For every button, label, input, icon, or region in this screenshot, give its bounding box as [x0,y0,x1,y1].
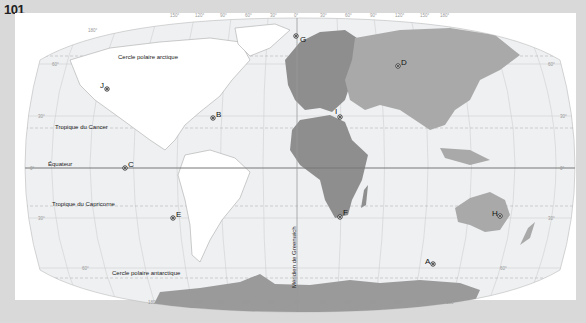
svg-text:A: A [425,257,431,266]
lat-label: 60° [500,266,507,271]
lon-label: 30° [270,13,277,18]
tropic-cancer-label: Tropique du Cancer [55,124,108,130]
lon-label: 150° [170,13,180,18]
svg-text:J: J [100,81,104,90]
lon-label: 180° [440,13,450,18]
equator-label: Équateur [48,161,72,167]
lon-label: 90° [370,300,377,305]
lon-label: 120° [195,13,205,18]
tropic-capricorn-label: Tropique du Capricorne [52,201,115,207]
svg-text:H: H [492,209,498,218]
lon-label: 150° [416,300,426,305]
lon-label: 0° [294,13,299,18]
lat-label: 60° [82,266,89,271]
lon-label: 150° [420,13,430,18]
lat-label: 30° [560,114,567,119]
lon-label: 90° [370,13,377,18]
lon-label: 180° [88,28,98,33]
lat-label: 0° [30,166,35,171]
svg-text:F: F [343,208,348,217]
lon-label: 30° [320,13,327,18]
lon-label: 120° [393,300,403,305]
svg-text:B: B [216,110,221,119]
lat-label: 60° [548,62,555,67]
lon-label: 90° [218,300,225,305]
lat-label: 60° [52,62,59,67]
lon-label: 180° [148,300,158,305]
lat-label: 30° [38,216,45,221]
lon-label: 120° [193,300,203,305]
lat-label: 30° [548,216,555,221]
lon-label: 30° [268,300,275,305]
svg-text:G: G [300,35,306,44]
arctic-circle-label: Cercle polaire arctique [118,54,179,60]
lon-label: 0° [295,300,300,305]
lon-label: 120° [395,13,405,18]
lon-label: 60° [345,13,352,18]
lon-label: 180° [446,300,456,305]
greenwich-meridian-label: Méridien de Greenwich [291,226,297,288]
svg-text:I: I [335,107,337,116]
lon-label: 60° [345,300,352,305]
lon-label: 150° [170,300,180,305]
lon-label: 90° [220,13,227,18]
svg-text:C: C [128,160,134,169]
lat-label: 30° [38,114,45,119]
lat-label: 0° [560,166,565,171]
svg-text:E: E [176,210,181,219]
world-map: 180° 150° 120° 90° 60° 30° 0° 30° 60° 90… [0,0,586,323]
lon-label: 60° [245,13,252,18]
antarctic-circle-label: Cercle polaire antarctique [112,270,181,276]
lon-label: 60° [243,300,250,305]
svg-text:D: D [401,58,407,67]
lon-label: 30° [320,300,327,305]
